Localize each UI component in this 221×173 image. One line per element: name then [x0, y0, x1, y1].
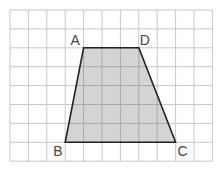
trapezoid-grid-diagram: A D B C — [0, 0, 221, 173]
vertex-label-c: C — [178, 143, 188, 159]
vertex-label-b: B — [53, 143, 62, 159]
vertex-label-a: A — [71, 32, 81, 48]
vertex-label-d: D — [140, 32, 150, 48]
